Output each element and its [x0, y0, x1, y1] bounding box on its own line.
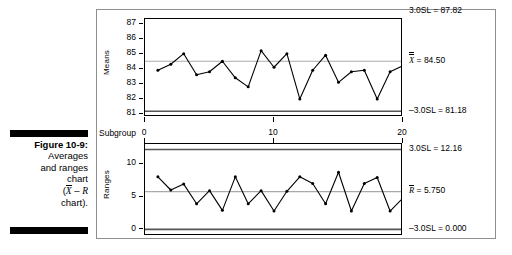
figure-frame: Means 81828384858687 3.0SL = 87.82X = 84…: [96, 9, 496, 239]
means-y-tick-mark: [139, 53, 143, 54]
caption-r-symbol: R: [82, 186, 88, 196]
ranges-y-tick-label: 5: [116, 190, 136, 200]
means-y-tick-label: 85: [116, 47, 136, 57]
means-centerline-annotation-value: = 84.50: [414, 55, 445, 65]
ranges-chart: Ranges 0510 3.0SL = 12.16R = 5.750–3.0SL…: [97, 142, 497, 238]
x-tick-mark-upper: [144, 117, 145, 122]
means-plot-area: [144, 18, 402, 116]
x-tick-label: 10: [258, 127, 288, 137]
x-tick-label: 20: [387, 127, 417, 137]
figure-root: Figure 10-9: Averages and ranges chart (…: [0, 0, 512, 255]
means-series-svg: [145, 19, 402, 116]
caption-rule-bottom: [10, 227, 88, 234]
x-tick-label: 0: [129, 127, 159, 137]
caption-figure-number: Figure 10-9:: [0, 139, 88, 150]
x-tick-mark-upper: [402, 117, 403, 122]
means-y-tick-label: 84: [116, 62, 136, 72]
caption-line-3: chart: [0, 173, 88, 184]
ranges-centerline-annotation-value: = 5.750: [414, 185, 445, 195]
means-y-tick-mark: [139, 113, 143, 114]
caption-xbar-symbol: X: [66, 186, 72, 197]
means-y-tick-label: 83: [116, 77, 136, 87]
means-centerline-annotation: X = 84.50: [409, 55, 445, 65]
ranges-centerline-annotation: R = 5.750: [409, 185, 445, 195]
figure-caption: Figure 10-9: Averages and ranges chart (…: [0, 128, 96, 238]
caption-line-1: Averages: [0, 150, 88, 161]
means-y-tick-mark: [139, 68, 143, 69]
ranges-y-tick-label: 10: [116, 157, 136, 167]
means-y-tick-label: 81: [116, 107, 136, 117]
means-y-tick-mark: [139, 38, 143, 39]
means-y-tick-label: 86: [116, 32, 136, 42]
ranges-centerline-annotation-symbol: R: [409, 185, 414, 195]
caption-line-5: chart).: [0, 197, 88, 208]
ranges-lcl-annotation: –3.0SL = 0.000: [409, 223, 467, 233]
means-chart: Means 81828384858687 3.0SL = 87.82X = 84…: [97, 10, 497, 128]
means-y-tick-mark: [139, 23, 143, 24]
ranges-y-tick-mark: [139, 228, 143, 229]
ranges-ucl-annotation: 3.0SL = 12.16: [409, 143, 462, 153]
x-tick-mark-upper: [273, 117, 274, 122]
ranges-y-axis-label: Ranges: [102, 164, 111, 206]
caption-rule-top: [10, 130, 88, 137]
means-ucl-annotation: 3.0SL = 87.82: [409, 5, 462, 15]
caption-text: Figure 10-9: Averages and ranges chart (…: [0, 139, 88, 208]
ranges-plot-area: [144, 143, 402, 235]
means-y-tick-mark: [139, 98, 143, 99]
means-y-axis-label: Means: [102, 42, 111, 84]
ranges-series-svg: [145, 144, 402, 235]
means-lcl-annotation: –3.0SL = 81.18: [409, 105, 467, 115]
caption-line-4: (X – R: [0, 185, 88, 197]
means-centerline-annotation-symbol: X: [409, 55, 414, 65]
means-y-tick-label: 82: [116, 92, 136, 102]
caption-line-2: and ranges: [0, 162, 88, 173]
means-y-tick-label: 87: [116, 17, 136, 27]
ranges-y-tick-mark: [139, 196, 143, 197]
ranges-y-tick-mark: [139, 163, 143, 164]
means-y-tick-mark: [139, 83, 143, 84]
caption-dash: –: [72, 185, 83, 196]
ranges-y-tick-label: 0: [116, 223, 136, 233]
